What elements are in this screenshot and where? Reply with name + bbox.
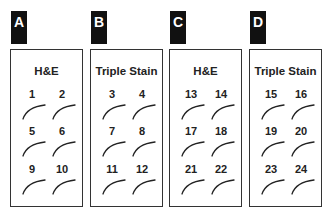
tissue-section-curve-icon [290,102,316,120]
slide-item: 21 [180,163,206,197]
panel-title: Triple Stain [250,65,321,77]
slide-item: 9 [21,163,47,197]
tissue-section-curve-icon [290,177,316,195]
slide-item: 19 [260,125,286,159]
slide-number: 12 [131,163,153,175]
slide-item: 4 [131,88,157,122]
tissue-section-curve-icon [21,177,47,195]
tissue-section-curve-icon [101,177,127,195]
tissue-section-curve-icon [210,139,236,157]
slide-number: 21 [180,163,202,175]
panel-label-b: B [91,11,107,44]
slide-number: 10 [51,163,73,175]
slide-number: 16 [290,88,312,100]
slide-item: 13 [180,88,206,122]
tissue-section-curve-icon [210,102,236,120]
tissue-section-curve-icon [260,102,286,120]
tissue-section-curve-icon [260,177,286,195]
panel-label-d: D [250,11,266,44]
slide-item: 7 [101,125,127,159]
panel-d: Triple Stain151619202324 [249,49,322,207]
slide-number: 18 [210,125,232,137]
tissue-section-curve-icon [210,177,236,195]
slide-number: 24 [290,163,312,175]
slide-number: 14 [210,88,232,100]
slide-item: 2 [51,88,77,122]
slide-number: 1 [21,88,43,100]
slide-item: 1 [21,88,47,122]
panel-label-a: A [11,11,27,44]
tissue-section-curve-icon [21,139,47,157]
slide-item: 5 [21,125,47,159]
slide-number: 17 [180,125,202,137]
slide-item: 23 [260,163,286,197]
slide-item: 17 [180,125,206,159]
slide-item: 15 [260,88,286,122]
panel-a: H&E1256910 [10,49,83,207]
tissue-section-curve-icon [260,139,286,157]
slide-number: 20 [290,125,312,137]
tissue-section-curve-icon [180,139,206,157]
tissue-section-curve-icon [180,177,206,195]
slide-number: 2 [51,88,73,100]
panel-c: H&E131417182122 [169,49,242,207]
slide-item: 12 [131,163,157,197]
slide-item: 14 [210,88,236,122]
tissue-section-curve-icon [180,102,206,120]
slide-item: 18 [210,125,236,159]
slide-item: 3 [101,88,127,122]
slide-number: 6 [51,125,73,137]
slide-item: 16 [290,88,316,122]
slide-number: 23 [260,163,282,175]
tissue-section-curve-icon [290,139,316,157]
slide-number: 22 [210,163,232,175]
tissue-section-curve-icon [51,139,77,157]
tissue-section-curve-icon [101,139,127,157]
panel-title: Triple Stain [91,65,162,77]
slide-item: 11 [101,163,127,197]
panel-title: H&E [11,65,82,77]
tissue-section-curve-icon [131,139,157,157]
tissue-section-curve-icon [101,102,127,120]
tissue-section-curve-icon [21,102,47,120]
slide-number: 7 [101,125,123,137]
slide-item: 10 [51,163,77,197]
slide-number: 11 [101,163,123,175]
slide-item: 8 [131,125,157,159]
tissue-section-curve-icon [51,177,77,195]
slide-number: 9 [21,163,43,175]
slide-number: 3 [101,88,123,100]
slide-number: 13 [180,88,202,100]
slide-item: 6 [51,125,77,159]
panel-title: H&E [170,65,241,77]
tissue-section-curve-icon [51,102,77,120]
slide-number: 8 [131,125,153,137]
slide-item: 22 [210,163,236,197]
slide-item: 24 [290,163,316,197]
tissue-section-curve-icon [131,177,157,195]
slide-number: 5 [21,125,43,137]
slide-number: 19 [260,125,282,137]
panel-b: Triple Stain34781112 [90,49,163,207]
slide-item: 20 [290,125,316,159]
panel-label-c: C [170,11,186,44]
tissue-section-curve-icon [131,102,157,120]
slide-number: 15 [260,88,282,100]
slide-number: 4 [131,88,153,100]
